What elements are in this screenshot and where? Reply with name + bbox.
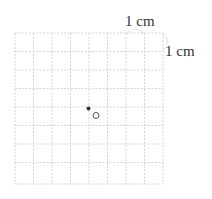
right-scale-label: 1 cm xyxy=(165,43,195,60)
open-circle xyxy=(93,113,99,119)
top-brace xyxy=(126,30,145,34)
grid-diagram xyxy=(0,0,212,199)
top-scale-label: 1 cm xyxy=(125,13,155,30)
filled-dot xyxy=(87,107,91,111)
